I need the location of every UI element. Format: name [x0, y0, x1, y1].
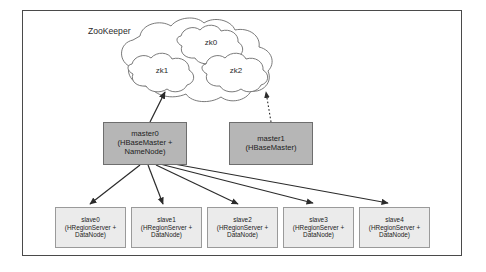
node-master0[interactable]: master0 (HBaseMaster + NameNode): [103, 122, 187, 165]
node-slave2-title: slave2: [233, 216, 251, 224]
node-slave4-title: slave4: [385, 216, 403, 224]
zookeeper-label: ZooKeeper: [88, 26, 131, 36]
node-slave0-title: slave0: [81, 216, 99, 224]
node-slave1[interactable]: slave1 (HRegionServer + DataNode): [131, 207, 202, 248]
node-slave2[interactable]: slave2 (HRegionServer + DataNode): [207, 207, 278, 248]
node-slave0-subtitle: (HRegionServer +: [65, 224, 116, 232]
node-slave1-title: slave1: [157, 216, 175, 224]
node-slave0-subtitle2: DataNode): [75, 231, 106, 239]
node-slave3-subtitle: (HRegionServer +: [293, 224, 344, 232]
node-slave4-subtitle2: DataNode): [379, 231, 410, 239]
node-master1-subtitle: (HBaseMaster): [245, 144, 296, 153]
zk-node-label-zk2: zk2: [216, 66, 256, 75]
node-slave4-subtitle: (HRegionServer +: [369, 224, 420, 232]
node-slave3[interactable]: slave3 (HRegionServer + DataNode): [283, 207, 354, 248]
zk-node-label-zk0: zk0: [191, 38, 231, 47]
diagram-canvas: ZooKeeper zk0 zk1 zk2 master0 (HBaseMast…: [0, 0, 486, 272]
node-slave1-subtitle: (HRegionServer +: [141, 224, 192, 232]
node-slave3-title: slave3: [309, 216, 327, 224]
node-master0-subtitle2: NameNode): [125, 148, 166, 157]
node-master1[interactable]: master1 (HBaseMaster): [229, 122, 313, 165]
node-slave2-subtitle2: DataNode): [227, 231, 258, 239]
node-slave2-subtitle: (HRegionServer +: [217, 224, 268, 232]
node-slave3-subtitle2: DataNode): [303, 231, 334, 239]
zk-node-label-zk1: zk1: [142, 66, 182, 75]
node-slave1-subtitle2: DataNode): [151, 231, 182, 239]
node-slave0[interactable]: slave0 (HRegionServer + DataNode): [55, 207, 126, 248]
node-slave4[interactable]: slave4 (HRegionServer + DataNode): [359, 207, 430, 248]
